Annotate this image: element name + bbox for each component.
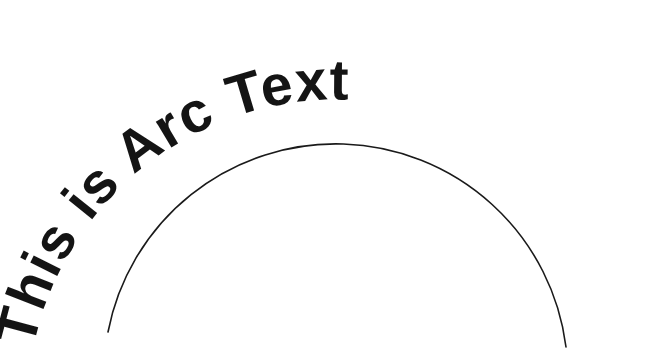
artwork-canvas: This is Arc Text — [0, 0, 670, 359]
arc-text-graphic: This is Arc Text — [0, 0, 670, 359]
